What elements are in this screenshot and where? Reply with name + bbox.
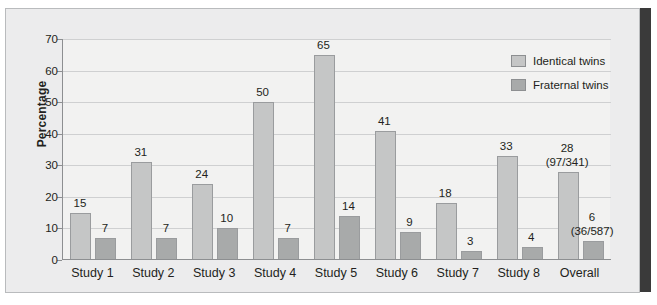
- y-tick-label: 0: [28, 254, 58, 266]
- figure-shadow-right: [640, 8, 651, 300]
- bar-fraternal: [400, 232, 421, 260]
- chart-panel: 010203040506070 Percentage 1573172410507…: [5, 8, 640, 293]
- bar-identical: [253, 102, 274, 260]
- x-category-label: Overall: [560, 266, 600, 280]
- y-tick-label: 10: [28, 222, 58, 234]
- bar-fraternal: [278, 238, 299, 260]
- y-tick-label: 20: [28, 191, 58, 203]
- bar-value-label: 14: [342, 200, 355, 212]
- bar-fraternal: [217, 228, 238, 260]
- y-tick-label: 70: [28, 33, 58, 45]
- x-axis-line: [62, 259, 611, 260]
- bar-identical: [314, 55, 335, 260]
- bar-fraternal: [583, 241, 604, 260]
- x-category-label: Study 8: [497, 266, 539, 280]
- bar-identical: [497, 156, 518, 260]
- gridline: [63, 134, 611, 135]
- bar-value-label: 15: [74, 197, 87, 209]
- figure-root: 010203040506070 Percentage 1573172410507…: [0, 0, 657, 305]
- bar-value-sublabel: (36/587): [571, 225, 614, 237]
- legend-label-identical: Identical twins: [533, 55, 605, 67]
- bar-identical: [192, 184, 213, 260]
- bar-value-label: 6: [589, 211, 595, 223]
- x-category-label: Study 4: [254, 266, 296, 280]
- bar-value-sublabel: (97/341): [546, 156, 589, 168]
- x-category-label: Study 3: [193, 266, 235, 280]
- x-category-label: Study 1: [71, 266, 113, 280]
- gridline: [63, 39, 611, 40]
- bar-identical: [131, 162, 152, 260]
- bar-identical: [558, 172, 579, 260]
- bar-value-label: 24: [195, 168, 208, 180]
- bar-value-label: 10: [220, 212, 233, 224]
- gridline: [63, 102, 611, 103]
- bar-value-label: 28: [561, 142, 574, 154]
- x-category-label: Study 7: [437, 266, 479, 280]
- x-category-label: Study 2: [132, 266, 174, 280]
- legend-swatch-fraternal-icon: [511, 79, 526, 91]
- x-category-label: Study 5: [315, 266, 357, 280]
- bar-fraternal: [156, 238, 177, 260]
- bar-value-label: 41: [378, 115, 391, 127]
- bar-identical: [436, 203, 457, 260]
- bar-fraternal: [95, 238, 116, 260]
- bar-value-label: 7: [163, 222, 169, 234]
- bar-value-label: 50: [256, 86, 269, 98]
- bar-value-label: 7: [284, 222, 290, 234]
- bar-value-label: 65: [317, 39, 330, 51]
- bar-value-label: 31: [134, 146, 147, 158]
- y-axis-title: Percentage: [35, 54, 49, 174]
- legend-item-fraternal-twins: Fraternal twins: [511, 75, 631, 95]
- legend-swatch-identical-icon: [511, 55, 526, 67]
- bar-value-label: 7: [102, 222, 108, 234]
- bar-fraternal: [339, 216, 360, 260]
- bar-value-label: 18: [439, 187, 452, 199]
- bar-value-label: 3: [467, 235, 473, 247]
- bar-value-label: 9: [406, 216, 412, 228]
- bar-value-label: 33: [500, 140, 513, 152]
- bar-identical: [375, 131, 396, 260]
- chart-legend: Identical twins Fraternal twins: [511, 51, 631, 99]
- bar-identical: [70, 213, 91, 260]
- figure-shadow-bottom: [10, 292, 651, 300]
- legend-label-fraternal: Fraternal twins: [533, 79, 608, 91]
- legend-item-identical-twins: Identical twins: [511, 51, 631, 71]
- x-category-label: Study 6: [376, 266, 418, 280]
- bar-value-label: 4: [528, 231, 534, 243]
